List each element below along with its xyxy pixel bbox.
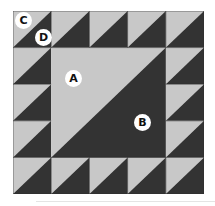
label-c: C <box>15 12 32 29</box>
label-a: A <box>65 70 82 87</box>
label-b: B <box>134 114 151 131</box>
divider-line <box>36 201 215 202</box>
label-d: D <box>35 29 52 46</box>
